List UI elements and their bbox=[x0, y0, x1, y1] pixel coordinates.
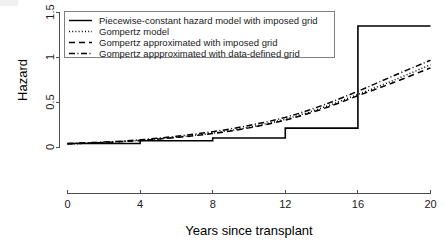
y-tick-label-1.5: 1.5 bbox=[44, 4, 56, 19]
series-path-1 bbox=[68, 65, 431, 144]
x-axis: 0 4 8 12 16 20 Years since transplant bbox=[64, 190, 436, 239]
legend-label-imposed-grid: Gompertz approximated with imposed grid bbox=[99, 37, 277, 48]
series-path-3 bbox=[68, 60, 431, 143]
legend-label-piecewise: Piecewise-constant hazard model with imp… bbox=[99, 15, 318, 26]
y-tick-label-0.5: 0.5 bbox=[44, 94, 56, 109]
plot-canvas: 1.5 1 0.5 0 Hazard 0 4 8 12 16 20 Years … bbox=[0, 0, 445, 246]
x-axis-title: Years since transplant bbox=[185, 223, 313, 238]
legend-entry-piecewise[interactable]: Piecewise-constant hazard model with imp… bbox=[69, 15, 318, 26]
legend-label-data-defined-grid: Gompertz appproximated with data-defined… bbox=[99, 48, 300, 59]
legend-entry-imposed-grid[interactable]: Gompertz approximated with imposed grid bbox=[69, 37, 277, 48]
x-tick-label-0: 0 bbox=[64, 198, 70, 210]
x-tick-label-12: 12 bbox=[279, 198, 291, 210]
x-tick-label-4: 4 bbox=[137, 198, 143, 210]
series-path-2 bbox=[68, 68, 431, 144]
x-tick-label-20: 20 bbox=[424, 198, 436, 210]
x-tick-label-8: 8 bbox=[210, 198, 216, 210]
x-tick-label-16: 16 bbox=[352, 198, 364, 210]
corner-artifact bbox=[0, 0, 18, 6]
legend-entry-data-defined-grid[interactable]: Gompertz appproximated with data-defined… bbox=[69, 48, 300, 59]
y-tick-label-0: 0 bbox=[44, 144, 56, 150]
y-axis: 1.5 1 0.5 0 Hazard bbox=[15, 4, 59, 150]
hazard-plot-figure: 1.5 1 0.5 0 Hazard 0 4 8 12 16 20 Years … bbox=[0, 0, 445, 246]
legend: Piecewise-constant hazard model with imp… bbox=[65, 12, 335, 59]
y-tick-label-1: 1 bbox=[44, 54, 56, 60]
y-axis-title: Hazard bbox=[15, 59, 30, 101]
legend-label-gompertz: Gompertz model bbox=[99, 26, 169, 37]
